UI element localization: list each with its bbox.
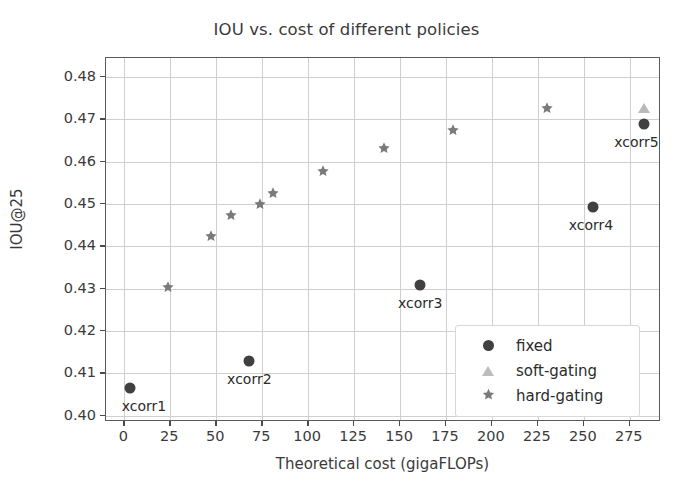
data-point-label: xcorr1 (122, 398, 166, 414)
data-point-fixed (415, 280, 426, 291)
data-point-hard-gating (377, 142, 390, 155)
y-axis-tick-label: 0.46 (64, 153, 96, 169)
data-point-hard-gating (267, 187, 280, 200)
gridline-horizontal (106, 77, 659, 78)
data-point-fixed (244, 356, 255, 367)
x-axis-tick (215, 421, 216, 426)
legend-circle-icon (466, 337, 510, 355)
x-axis-tick-label: 250 (569, 428, 597, 444)
data-point-fixed (124, 383, 135, 394)
legend-triangle-icon (466, 362, 510, 380)
x-axis-tick (353, 421, 354, 426)
x-axis-tick (583, 421, 584, 426)
x-axis-tick-label: 200 (477, 428, 505, 444)
data-point-hard-gating (204, 229, 217, 242)
legend-item-hard-gating: hard-gating (466, 383, 629, 408)
x-axis-tick-label: 275 (615, 428, 643, 444)
y-axis-tick (100, 330, 105, 331)
x-axis-tick-label: 125 (339, 428, 367, 444)
y-axis-tick-label: 0.44 (64, 237, 96, 253)
gridline-horizontal (106, 162, 659, 163)
data-point-hard-gating (254, 198, 267, 211)
data-point-label: xcorr3 (398, 295, 442, 311)
x-axis-tick (491, 421, 492, 426)
x-axis-tick-label: 175 (431, 428, 459, 444)
gridline-horizontal (106, 289, 659, 290)
x-axis-tick (399, 421, 400, 426)
x-axis-tick-label: 50 (206, 428, 224, 444)
gridline-vertical (262, 58, 263, 420)
legend-label: soft-gating (510, 362, 597, 380)
data-point-hard-gating (224, 208, 237, 221)
y-axis-tick (100, 245, 105, 246)
gridline-vertical (308, 58, 309, 420)
y-axis-tick-label: 0.40 (64, 407, 96, 423)
y-axis-tick (100, 415, 105, 416)
gridline-vertical (170, 58, 171, 420)
data-point-fixed (588, 201, 599, 212)
legend-star-icon (466, 387, 510, 405)
x-axis-tick (123, 421, 124, 426)
gridline-horizontal (106, 119, 659, 120)
x-axis-tick-label: 150 (385, 428, 413, 444)
x-axis-tick-label: 75 (252, 428, 270, 444)
x-axis-tick (445, 421, 446, 426)
scatter-chart-figure: IOU vs. cost of different policies xcorr… (0, 0, 693, 494)
gridline-vertical (354, 58, 355, 420)
x-axis-tick-label: 0 (119, 428, 128, 444)
x-axis-tick (307, 421, 308, 426)
legend-label: fixed (510, 337, 553, 355)
legend-label: hard-gating (510, 387, 603, 405)
x-axis-label: Theoretical cost (gigaFLOPs) (105, 455, 660, 473)
y-axis-tick (100, 161, 105, 162)
gridline-vertical (446, 58, 447, 420)
gridline-horizontal (106, 204, 659, 205)
data-point-hard-gating (162, 280, 175, 293)
chart-title: IOU vs. cost of different policies (0, 20, 693, 39)
x-axis-tick-label: 25 (160, 428, 178, 444)
gridline-horizontal (106, 246, 659, 247)
y-axis-tick (100, 372, 105, 373)
x-axis-tick-label: 225 (523, 428, 551, 444)
y-axis-tick (100, 203, 105, 204)
data-point-hard-gating (316, 165, 329, 178)
data-point-label: xcorr2 (227, 371, 271, 387)
y-axis-tick-label: 0.45 (64, 195, 96, 211)
y-axis-label: IOU@25 (8, 188, 26, 249)
y-axis-tick (100, 288, 105, 289)
x-axis-tick (629, 421, 630, 426)
y-axis-tick-label: 0.48 (64, 68, 96, 84)
gridline-vertical (124, 58, 125, 420)
y-axis-tick-label: 0.47 (64, 110, 96, 126)
x-axis-tick-label: 100 (293, 428, 321, 444)
legend-item-fixed: fixed (466, 333, 629, 358)
legend: fixedsoft-gatinghard-gating (455, 325, 640, 417)
x-axis-tick (537, 421, 538, 426)
data-point-hard-gating (447, 123, 460, 136)
y-axis-tick-label: 0.42 (64, 322, 96, 338)
x-axis-tick (261, 421, 262, 426)
y-axis-tick-label: 0.41 (64, 364, 96, 380)
data-point-hard-gating (541, 101, 554, 114)
y-axis-tick (100, 118, 105, 119)
gridline-vertical (400, 58, 401, 420)
y-axis-tick (100, 76, 105, 77)
y-axis-tick-label: 0.43 (64, 280, 96, 296)
data-point-soft-gating (638, 103, 650, 113)
data-point-fixed (639, 118, 650, 129)
data-point-label: xcorr4 (569, 217, 613, 233)
legend-item-soft-gating: soft-gating (466, 358, 629, 383)
x-axis-tick (169, 421, 170, 426)
data-point-label: xcorr5 (614, 134, 658, 150)
